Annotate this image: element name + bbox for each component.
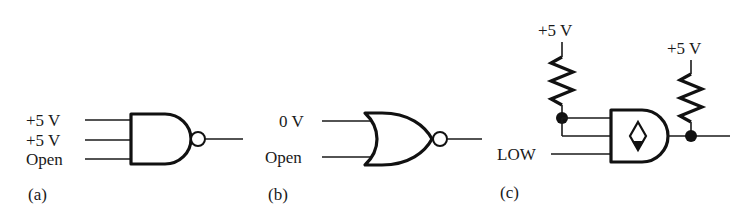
panel-a-input-label-1: +5 V bbox=[26, 112, 60, 129]
panel-b-inversion-bubble bbox=[433, 132, 447, 146]
panel-b-input-label-1: 0 V bbox=[279, 113, 304, 130]
panel-a-nand-circuit bbox=[85, 114, 243, 164]
panel-c-right-pullup-resistor bbox=[680, 74, 702, 122]
panel-a-caption: (a) bbox=[28, 186, 47, 203]
panel-c-input-junction-dot bbox=[556, 112, 568, 124]
panel-b-nor-circuit bbox=[322, 113, 482, 165]
logic-gate-figure: +5 V +5 V Open (a) 0 V Open (b) +5 V +5 … bbox=[0, 0, 737, 220]
panel-c-open-collector-diamond-fill bbox=[632, 141, 644, 150]
circuit-artwork bbox=[0, 0, 737, 220]
panel-a-input-label-2: +5 V bbox=[26, 132, 60, 149]
panel-c-left-pullup-resistor bbox=[551, 57, 573, 105]
panel-c-open-collector-diamond-icon bbox=[630, 122, 646, 150]
panel-c-right-supply-label: +5 V bbox=[667, 40, 701, 57]
panel-c-caption: (c) bbox=[500, 184, 519, 201]
panel-c-open-collector-circuit bbox=[551, 42, 730, 162]
panel-a-nand-gate-body bbox=[131, 114, 191, 164]
panel-b-input-label-2: Open bbox=[265, 149, 302, 166]
panel-c-and-gate-body bbox=[611, 110, 668, 162]
panel-c-input-label-low: LOW bbox=[497, 146, 536, 163]
panel-c-output-junction-dot bbox=[685, 130, 697, 142]
panel-a-input-label-3: Open bbox=[26, 151, 63, 168]
panel-b-nor-gate-body bbox=[365, 113, 432, 165]
panel-b-caption: (b) bbox=[268, 186, 288, 203]
panel-c-left-supply-label: +5 V bbox=[538, 22, 572, 39]
panel-a-inversion-bubble bbox=[191, 132, 205, 146]
